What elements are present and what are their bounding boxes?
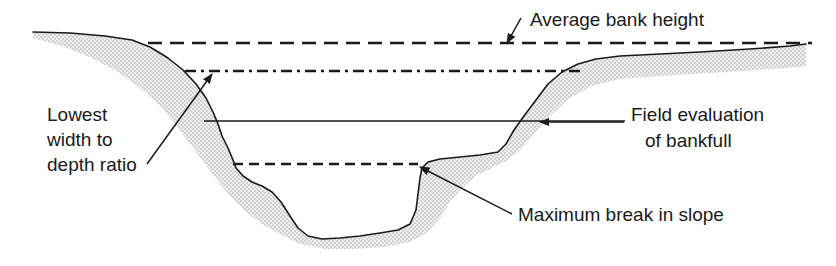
label-lowest-width-depth-ratio-line3: depth ratio — [47, 154, 137, 175]
label-field-evaluation-line1: Field evaluation — [631, 104, 764, 125]
label-average-bank-height: Average bank height — [530, 9, 705, 30]
average-bank-height-leader — [507, 18, 521, 43]
cross-section-svg: Average bank height Lowest width to dept… — [0, 0, 836, 266]
stream-cross-section-figure: Average bank height Lowest width to dept… — [0, 0, 836, 266]
label-field-evaluation-line2: of bankfull — [645, 130, 732, 151]
label-lowest-width-depth-ratio-line1: Lowest — [47, 104, 108, 125]
label-lowest-width-depth-ratio-line2: width to — [46, 129, 112, 150]
label-maximum-break-in-slope: Maximum break in slope — [518, 204, 724, 225]
